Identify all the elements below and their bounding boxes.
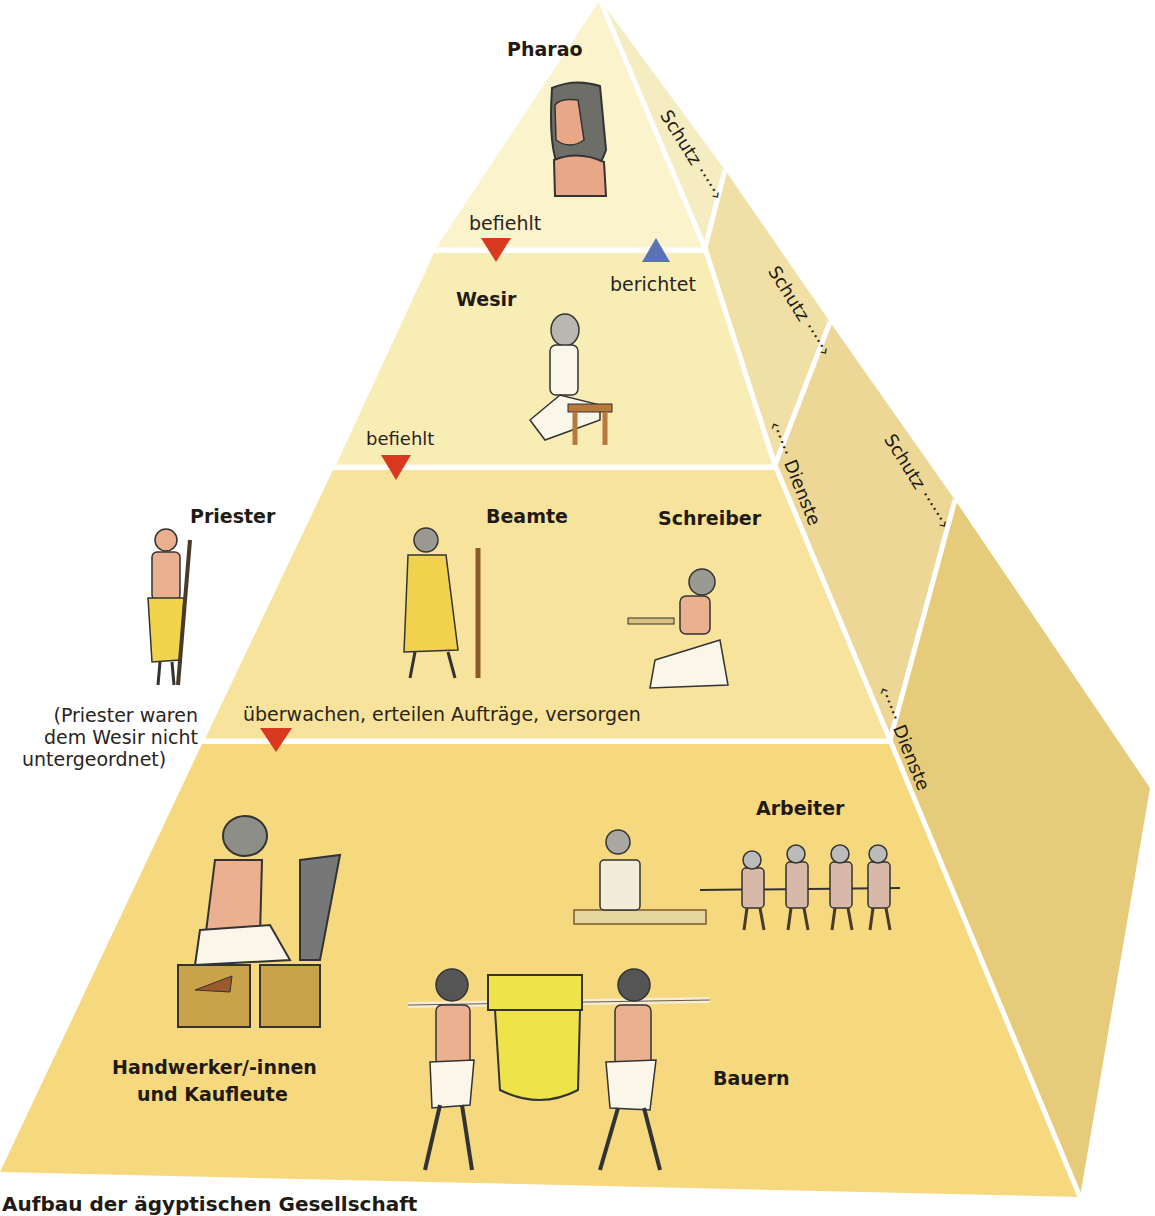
label-arbeiter: Arbeiter bbox=[756, 797, 844, 819]
priester-note: (Priester waren dem Wesir nicht untergeo… bbox=[20, 704, 198, 770]
text-berichtet: berichtet bbox=[610, 273, 696, 295]
label-handwerker-line1: Handwerker/-innen bbox=[112, 1056, 317, 1078]
priester-note-line3: untergeordnet) bbox=[20, 748, 198, 770]
text-ueberwachen: überwachen, erteilen Aufträge, versorgen bbox=[243, 703, 641, 725]
diagram-caption: Aufbau der ägyptischen Gesellschaft bbox=[2, 1192, 417, 1216]
label-handwerker-line2: und Kaufleute bbox=[137, 1083, 288, 1105]
priester-figure bbox=[148, 529, 190, 685]
text-befiehlt-1: befiehlt bbox=[469, 212, 541, 234]
text-befiehlt-2: befiehlt bbox=[366, 428, 434, 449]
label-schreiber: Schreiber bbox=[658, 507, 761, 529]
priester-note-line1: (Priester waren bbox=[20, 704, 198, 726]
label-priester: Priester bbox=[190, 505, 275, 527]
label-pharao: Pharao bbox=[507, 38, 583, 60]
label-beamte: Beamte bbox=[486, 505, 568, 527]
label-bauern: Bauern bbox=[713, 1067, 790, 1089]
pharao-figure bbox=[551, 82, 606, 196]
priester-note-line2: dem Wesir nicht bbox=[20, 726, 198, 748]
label-wesir: Wesir bbox=[456, 288, 516, 310]
